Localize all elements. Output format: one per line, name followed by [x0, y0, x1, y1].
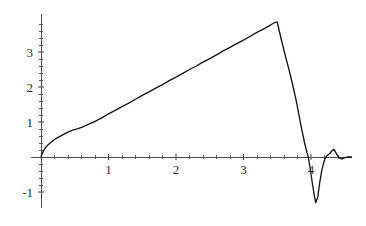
plot-figure: 1234 -1123 — [0, 0, 366, 226]
y-tick-label: 1 — [27, 115, 34, 130]
x-axis-tick-labels: 1234 — [105, 162, 315, 177]
x-tick-label: 1 — [105, 162, 112, 177]
x-tick-label: 3 — [240, 162, 247, 177]
y-tick-label: 3 — [27, 45, 34, 60]
y-tick-label: -1 — [22, 185, 33, 200]
data-curve — [41, 22, 352, 203]
line-chart: 1234 -1123 — [0, 0, 366, 226]
y-axis-tick-labels: -1123 — [22, 45, 33, 200]
y-tick-label: 2 — [27, 80, 34, 95]
x-tick-label: 2 — [173, 162, 180, 177]
